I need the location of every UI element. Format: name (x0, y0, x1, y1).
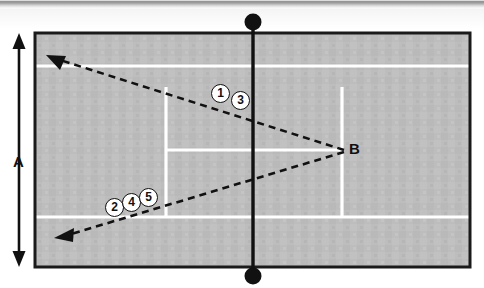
dimension-arrow-a (13, 33, 26, 267)
net-post-bottom-icon (245, 268, 262, 285)
tennis-court-diagram: A B 1 3 2 4 5 (0, 0, 484, 288)
shot-marker-3: 3 (231, 91, 250, 110)
shot-marker-5: 5 (139, 188, 158, 207)
target-label-b: B (349, 141, 360, 156)
dimension-arrowhead-top-icon (13, 33, 26, 49)
shot-marker-1: 1 (211, 84, 230, 103)
dimension-arrowhead-bottom-icon (13, 251, 26, 267)
court-svg (0, 0, 484, 288)
net-post-top-icon (245, 14, 262, 31)
dimension-label-a: A (13, 154, 24, 169)
